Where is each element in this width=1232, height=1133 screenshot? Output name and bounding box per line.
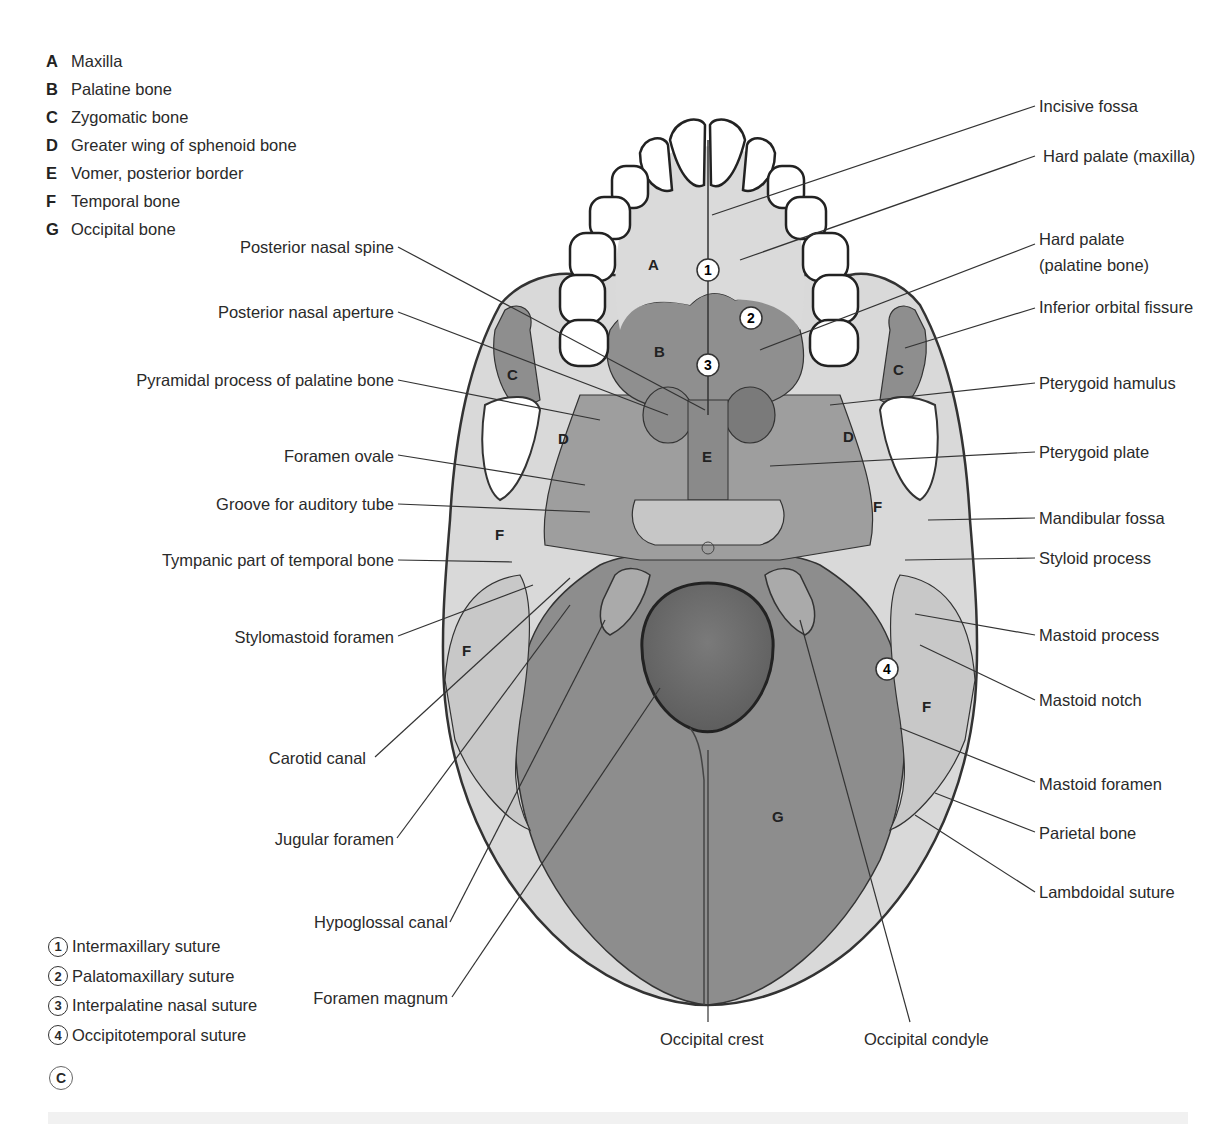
label-hard-palate-palatine: Hard palate (1039, 229, 1124, 249)
faded-caption-band (48, 1112, 1188, 1124)
svg-text:3: 3 (704, 357, 712, 373)
svg-text:2: 2 (747, 310, 755, 326)
copyright-icon: C (49, 1066, 73, 1090)
svg-text:D: D (558, 430, 569, 447)
label-mandibular-fossa: Mandibular fossa (1039, 508, 1165, 528)
label-jugular-foramen: Jugular foramen (275, 829, 394, 849)
suture-legend: 1Intermaxillary suture 2Palatomaxillary … (48, 932, 257, 1050)
number-2-icon: 2 (48, 966, 68, 986)
palatine-bone-region (607, 293, 804, 405)
label-mastoid-process: Mastoid process (1039, 625, 1159, 645)
label-styloid-process: Styloid process (1039, 548, 1151, 568)
label-mastoid-notch: Mastoid notch (1039, 690, 1142, 710)
label-pterygoid-plate: Pterygoid plate (1039, 442, 1149, 462)
label-carotid-canal: Carotid canal (269, 748, 366, 768)
svg-text:F: F (922, 698, 931, 715)
svg-text:B: B (654, 343, 665, 360)
label-incisive-fossa: Incisive fossa (1039, 96, 1138, 116)
suture-item-intermaxillary: 1Intermaxillary suture (48, 932, 257, 962)
label-lambdoidal-suture: Lambdoidal suture (1039, 882, 1175, 902)
label-posterior-nasal-aperture: Posterior nasal aperture (218, 302, 394, 322)
svg-text:C: C (893, 361, 904, 378)
svg-text:C: C (507, 366, 518, 383)
label-occipital-crest: Occipital crest (660, 1029, 764, 1049)
label-hypoglossal-canal: Hypoglossal canal (314, 912, 448, 932)
label-foramen-ovale: Foramen ovale (284, 446, 394, 466)
svg-text:F: F (873, 498, 882, 515)
label-mastoid-foramen: Mastoid foramen (1039, 774, 1162, 794)
suture-item-palatomaxillary: 2Palatomaxillary suture (48, 962, 257, 992)
number-1-icon: 1 (48, 937, 68, 957)
label-stylomastoid-foramen: Stylomastoid foramen (234, 627, 394, 647)
svg-text:D: D (843, 428, 854, 445)
svg-text:1: 1 (704, 262, 712, 278)
suture-item-occipitotemporal: 4Occipitotemporal suture (48, 1021, 257, 1051)
label-pyramidal-process: Pyramidal process of palatine bone (136, 370, 394, 390)
label-tympanic-part: Tympanic part of temporal bone (162, 550, 394, 570)
suture-item-interpalatine: 3Interpalatine nasal suture (48, 991, 257, 1021)
svg-text:F: F (495, 526, 504, 543)
number-3-icon: 3 (48, 996, 68, 1016)
label-posterior-nasal-spine: Posterior nasal spine (240, 237, 394, 257)
label-hard-palate-palatine-line2: (palatine bone) (1039, 255, 1149, 275)
label-groove-auditory-tube: Groove for auditory tube (216, 494, 394, 514)
svg-text:4: 4 (883, 661, 891, 677)
label-pterygoid-hamulus: Pterygoid hamulus (1039, 373, 1176, 393)
label-foramen-magnum: Foramen magnum (313, 988, 448, 1008)
label-parietal-bone: Parietal bone (1039, 823, 1136, 843)
svg-text:G: G (772, 808, 784, 825)
svg-text:F: F (462, 642, 471, 659)
region-letter-a: A (648, 256, 659, 273)
label-inferior-orbital-fissure: Inferior orbital fissure (1039, 297, 1193, 317)
label-occipital-condyle: Occipital condyle (864, 1029, 989, 1049)
number-4-icon: 4 (48, 1025, 68, 1045)
svg-text:E: E (702, 448, 712, 465)
label-hard-palate-maxilla: Hard palate (maxilla) (1043, 146, 1195, 166)
